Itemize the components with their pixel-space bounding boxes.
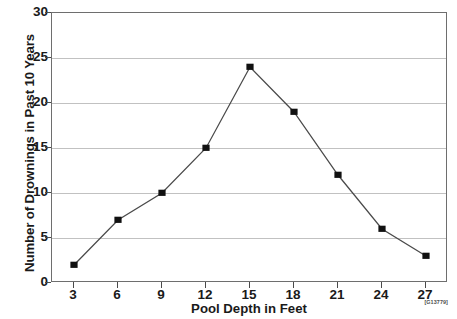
x-axis-tick-label: 24	[361, 288, 401, 302]
x-axis-tick-label: 9	[141, 288, 181, 302]
data-point-marker[interactable]	[70, 262, 77, 268]
x-axis-tick-label: 15	[229, 288, 269, 302]
x-axis-tick-label: 18	[273, 288, 313, 302]
y-axis-tick-mark	[45, 57, 51, 58]
x-axis-tick-label: 12	[185, 288, 225, 302]
data-point-marker[interactable]	[114, 217, 121, 223]
data-point-marker[interactable]	[290, 109, 297, 115]
y-axis-tick-mark	[45, 147, 51, 148]
y-axis-tick-mark	[45, 237, 51, 238]
data-point-marker[interactable]	[202, 145, 209, 151]
plot-area	[51, 12, 447, 282]
data-point-marker[interactable]	[158, 190, 165, 196]
x-axis-tick-label: 21	[317, 288, 357, 302]
y-axis-tick-mark	[45, 12, 51, 13]
x-axis-tick-label: 3	[53, 288, 93, 302]
series-line	[74, 67, 426, 265]
data-point-marker[interactable]	[378, 226, 385, 232]
data-series-svg	[52, 13, 448, 283]
y-axis-tick-mark	[45, 102, 51, 103]
figure-code: [G13779]	[424, 299, 448, 305]
y-axis-tick-labels: 051015202530	[22, 0, 48, 319]
x-axis-tick-label: 6	[97, 288, 137, 302]
x-axis-title: Pool Depth in Feet	[51, 301, 447, 316]
y-axis-tick-mark	[45, 192, 51, 193]
y-axis-tick-mark	[45, 282, 51, 283]
data-point-marker[interactable]	[422, 253, 429, 259]
line-chart: Number of Drownings in Past 10 Years 051…	[0, 0, 457, 319]
data-point-marker[interactable]	[246, 64, 253, 70]
data-point-marker[interactable]	[334, 172, 341, 178]
